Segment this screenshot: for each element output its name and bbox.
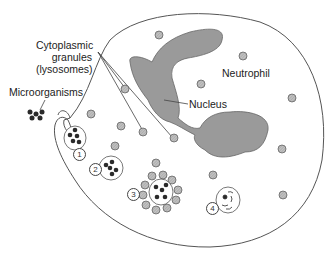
step-number-4: 4 [206,202,219,215]
neutrophil-phagocytosis-diagram [0,0,330,253]
granules-label-line3: (lysosomes) [36,63,92,75]
step-number-1: 1 [73,148,86,161]
step-number-3: 3 [127,188,140,201]
microorganisms-cluster [28,110,45,121]
granules-label: Cytoplasmic granules (lysosomes) [36,39,92,75]
nucleus-label: Nucleus [189,98,227,110]
microorganisms-pointer-line [40,100,45,110]
granules-label-line1: Cytoplasmic [36,39,92,51]
neutrophil-label: Neutrophil [222,67,270,79]
step-number-2: 2 [89,163,102,176]
microorganisms-label: Microorganisms [9,86,83,98]
granules-label-line2: granules [36,51,92,63]
pseudopod-edge [58,111,70,118]
